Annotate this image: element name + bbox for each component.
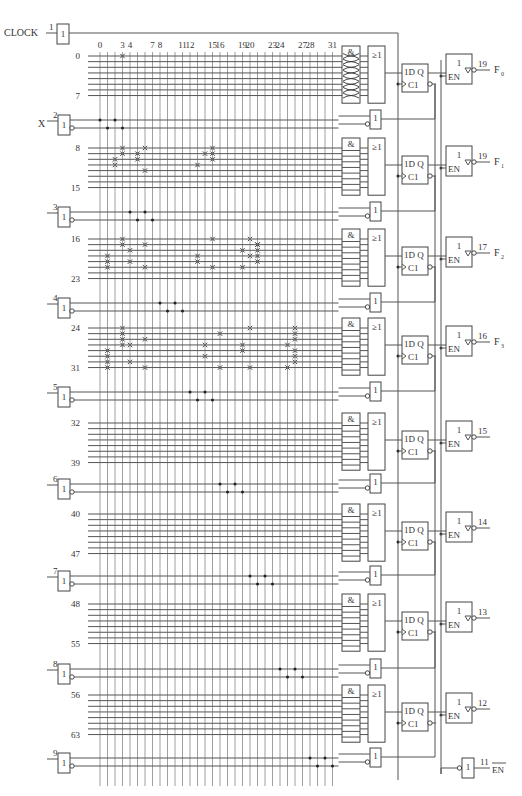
clock-pin-number: 1 (49, 22, 54, 32)
output-inversion-bubble-icon (472, 160, 476, 164)
junction-dot (99, 119, 102, 122)
input-inversion-bubble-icon (70, 582, 74, 586)
fuse-center (197, 164, 199, 166)
output-pin-number: 19 (478, 151, 488, 161)
enable-label: EN (448, 164, 460, 174)
fuse-center (294, 333, 296, 335)
input-inversion-bubble-icon (70, 764, 74, 768)
junction-dot (159, 302, 162, 305)
junction-dot (294, 668, 297, 671)
fuse-center (144, 338, 146, 340)
fuse-center (107, 255, 109, 257)
qbar-bubble-icon (428, 449, 432, 453)
input-buffer-symbol: 1 (62, 212, 67, 222)
clock-buffer-symbol: 1 (61, 29, 66, 39)
and-symbol: & (347, 595, 354, 605)
fuse-center (219, 367, 221, 369)
feedback-inversion-bubble-icon (365, 305, 369, 309)
input-pin-number: 5 (53, 382, 58, 392)
or-symbol: ≥1 (372, 598, 381, 608)
feedback-inversion-bubble-icon (365, 394, 369, 398)
oe-label: EN (492, 765, 504, 775)
enable-label: EN (448, 711, 460, 721)
fuse-center (129, 361, 131, 363)
fuse-center (257, 244, 259, 246)
pal-logic-diagram: 034781112151619202324272831CLOCK1107&≥11… (0, 0, 522, 796)
junction-dot (144, 211, 147, 214)
output-pin-number: 15 (478, 426, 488, 436)
fuse-center (212, 153, 214, 155)
fuse-center (249, 367, 251, 369)
input-buffer-symbol: 1 (62, 484, 67, 494)
ff-d-label: 1D Q (404, 339, 424, 349)
output-signal-subscript: 2 (501, 254, 504, 260)
enable-label: EN (448, 530, 460, 540)
column-label: 31 (328, 40, 337, 50)
junction-dot (256, 583, 259, 586)
output-pin-number: 12 (478, 698, 487, 708)
or-symbol: ≥1 (372, 322, 381, 332)
oe-inversion-bubble-icon (457, 766, 461, 770)
product-term-label: 56 (71, 690, 81, 700)
qbar-bubble-icon (428, 721, 432, 725)
column-label: 7 (150, 40, 155, 50)
fuse-center (212, 158, 214, 160)
input-buffer-symbol: 1 (62, 392, 67, 402)
and-symbol: & (347, 319, 354, 329)
product-term-label: 0 (76, 51, 81, 61)
fuse-center (204, 355, 206, 357)
output-signal-subscript: 1 (501, 163, 504, 169)
feedback-inversion-bubble-icon (365, 671, 369, 675)
fuse-center (144, 266, 146, 268)
fuse-center (294, 361, 296, 363)
product-term-label: 8 (76, 143, 81, 153)
output-buffer-symbol: 1 (457, 516, 462, 526)
qbar-bubble-icon (428, 354, 432, 358)
junction-dot (204, 391, 207, 394)
output-buffer-symbol: 1 (457, 425, 462, 435)
product-term-label: 16 (71, 234, 81, 244)
junction-dot (241, 491, 244, 494)
junction-dot (301, 676, 304, 679)
ff-clock-label: C1 (408, 628, 419, 638)
fuse-center (107, 361, 109, 363)
junction-dot (279, 668, 282, 671)
clock-label: CLOCK (4, 27, 39, 38)
fuse-center (257, 255, 259, 257)
fuse-center (294, 355, 296, 357)
fuse-center (122, 238, 124, 240)
input-buffer-symbol: 1 (62, 303, 67, 313)
fuse-center (107, 355, 109, 357)
junction-dot (129, 211, 132, 214)
ff-d-label: 1D Q (404, 67, 424, 77)
output-pin-number: 19 (478, 59, 488, 69)
output-signal-subscript: 3 (501, 343, 504, 349)
column-label: 8 (158, 40, 163, 50)
feedback-inversion-bubble-icon (365, 578, 369, 582)
junction-dot (309, 757, 312, 760)
or-symbol: ≥1 (372, 233, 381, 243)
input-inversion-bubble-icon (70, 309, 74, 313)
or-symbol: ≥1 (372, 417, 381, 427)
enable-label: EN (448, 439, 460, 449)
and-symbol: & (347, 505, 354, 515)
oe-buffer-symbol: 1 (466, 762, 471, 772)
fuse-center (122, 244, 124, 246)
feedback-buffer-symbol: 1 (373, 296, 378, 306)
feedback-inversion-bubble-icon (365, 122, 369, 126)
fuse-center (107, 261, 109, 263)
product-term-label: 48 (71, 599, 81, 609)
fuse-center (122, 333, 124, 335)
fuse-center (204, 153, 206, 155)
fuse-center (122, 153, 124, 155)
junction-dot (234, 483, 237, 486)
ff-d-label: 1D Q (404, 159, 424, 169)
input-pin-number: 3 (53, 202, 58, 212)
input-inversion-bubble-icon (70, 490, 74, 494)
output-inversion-bubble-icon (472, 68, 476, 72)
junction-dot (181, 310, 184, 313)
input-inversion-bubble-icon (70, 218, 74, 222)
input-inversion-bubble-icon (70, 675, 74, 679)
output-pin-number: 17 (478, 242, 488, 252)
fuse-center (197, 261, 199, 263)
